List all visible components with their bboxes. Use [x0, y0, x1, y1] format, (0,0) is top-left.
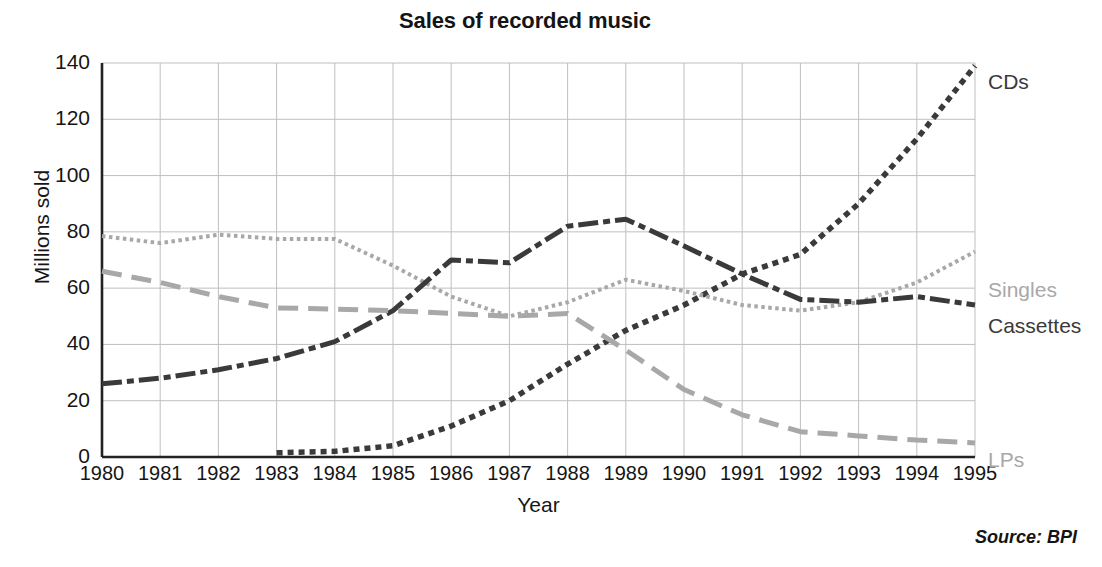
y-tick-label: 60 — [30, 275, 90, 299]
x-tick-label: 1984 — [304, 462, 366, 485]
x-tick-label: 1988 — [537, 462, 599, 485]
x-tick-label: 1993 — [828, 462, 890, 485]
x-tick-label: 1991 — [711, 462, 773, 485]
y-tick-label: 140 — [30, 50, 90, 74]
x-tick-label: 1994 — [886, 462, 948, 485]
x-tick-label: 1982 — [187, 462, 249, 485]
y-tick-label: 100 — [30, 163, 90, 187]
series-label-singles: Singles — [988, 278, 1057, 302]
chart-container: Sales of recorded music Millions sold 02… — [0, 0, 1102, 567]
y-tick-label: 40 — [30, 331, 90, 355]
series-label-cds: CDs — [988, 70, 1029, 94]
y-tick-label: 80 — [30, 219, 90, 243]
x-tick-label: 1992 — [769, 462, 831, 485]
chart-title: Sales of recorded music — [0, 8, 1050, 34]
y-tick-label: 120 — [30, 106, 90, 130]
x-axis-title: Year — [102, 493, 975, 517]
x-tick-label: 1985 — [362, 462, 424, 485]
x-tick-label: 1989 — [595, 462, 657, 485]
x-tick-label: 1983 — [246, 462, 308, 485]
series-label-lps: LPs — [988, 448, 1024, 472]
series-line-lps — [102, 271, 975, 443]
source-note: Source: BPI — [975, 527, 1077, 548]
x-tick-label: 1990 — [653, 462, 715, 485]
series-label-cassettes: Cassettes — [988, 314, 1081, 338]
x-tick-label: 1980 — [71, 462, 133, 485]
y-tick-label: 20 — [30, 388, 90, 412]
x-tick-label: 1981 — [129, 462, 191, 485]
x-tick-label: 1986 — [420, 462, 482, 485]
x-tick-label: 1987 — [478, 462, 540, 485]
